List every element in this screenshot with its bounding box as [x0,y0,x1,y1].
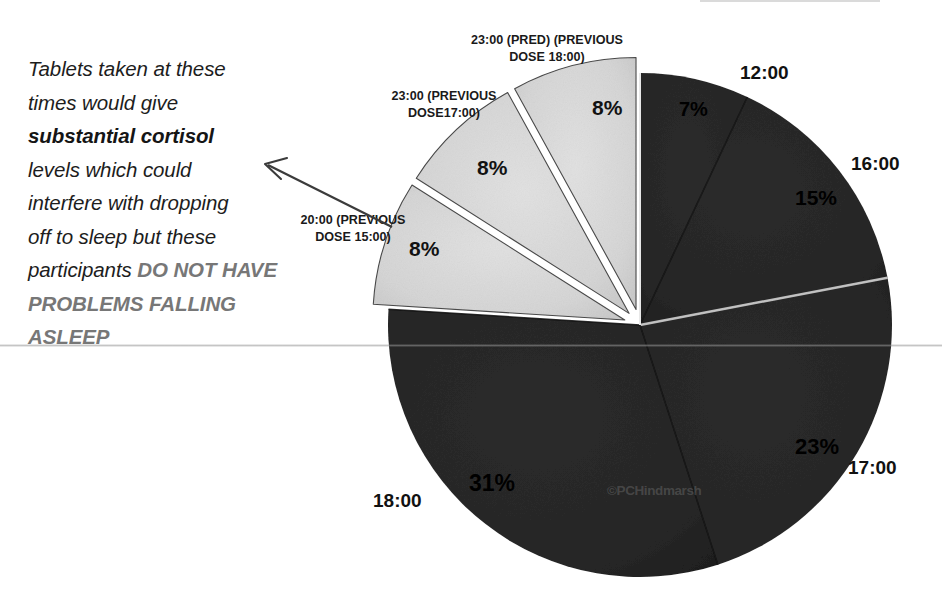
annotation-line-3: levels which could [28,158,191,181]
annotation-line-4: interfere with dropping [28,191,229,214]
annotation-line-1: Tablets taken at these [28,57,226,80]
pct-label-20-prev15: 8% [409,237,439,261]
annotation-line-6-prefix: participants [28,258,137,281]
time-label-18-00: 18:00 [373,490,422,512]
annotation-line-5: off to sleep but these [28,225,216,248]
pct-label-12-00: 7% [679,98,708,121]
pct-label-18-00: 31% [469,470,515,497]
annotation-line-2: times would give [28,91,178,114]
slice-callout-23-prev17: 23:00 (PREVIOUS DOSE17:00) [345,88,543,121]
pct-label-23-pred: 8% [592,96,622,120]
time-label-17-00: 17:00 [848,457,897,479]
annotation-bold-phrase: substantial cortisol [28,124,214,147]
pct-label-16-00: 15% [795,186,837,210]
slice-callout-23-pred: 23:00 (PRED) (PREVIOUS DOSE 18:00) [431,32,663,65]
time-label-12-00: 12:00 [740,62,789,84]
annotation-text-block: Tablets taken at these times would give … [28,52,280,354]
chart-canvas: Tablets taken at these times would give … [0,0,942,611]
time-label-16-00: 16:00 [851,153,900,175]
pct-label-17-00: 23% [795,434,839,460]
pct-label-23-prev17: 8% [477,156,507,180]
